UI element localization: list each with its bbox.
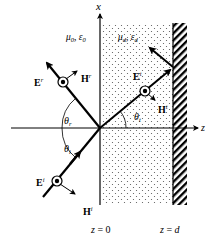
- reflected-e-label: Er: [34, 76, 44, 88]
- boundary-zd-label: z = d: [159, 224, 181, 235]
- reflected-h-vector: [66, 71, 77, 79]
- theta-r-label: θr: [64, 115, 72, 127]
- diagram-canvas: x z μ0, ε0 μd, εd Er Hr Et Ht Ei Hi θr θ…: [0, 0, 217, 246]
- theta-i-label: θi: [64, 143, 71, 155]
- medium-0-label: μ0, ε0: [65, 32, 87, 43]
- x-axis-label: x: [95, 0, 101, 12]
- incident-e-label: Ei: [36, 176, 45, 188]
- boundary-z0-label: z = 0: [90, 224, 111, 235]
- reflected-h-label: Hr: [81, 72, 92, 84]
- reflected-ray: [47, 63, 100, 128]
- incident-h-label: Hi: [83, 205, 93, 217]
- incident-h-vector: [60, 184, 75, 194]
- conductor-wall: [173, 23, 187, 205]
- z-axis-label: z: [200, 122, 205, 133]
